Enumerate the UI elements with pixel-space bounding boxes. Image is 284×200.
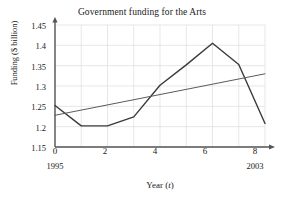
plot-area — [0, 0, 284, 200]
y-axis-arrowhead — [52, 17, 57, 23]
x-axis-arrowhead — [269, 144, 275, 149]
chart-figure: Government funding for the Arts Funding … — [0, 0, 284, 200]
